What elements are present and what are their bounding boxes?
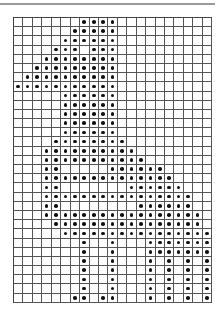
grid-cell (80, 248, 89, 257)
grid-cell (165, 55, 174, 64)
grid-cell (203, 55, 212, 64)
dot-marker (111, 149, 115, 153)
grid-cell (137, 294, 146, 303)
grid-cell (80, 294, 89, 303)
dot-marker (101, 103, 105, 107)
grid-cell (71, 156, 80, 165)
dot-marker (139, 232, 143, 236)
dot-marker (120, 213, 124, 217)
dot-marker (64, 131, 68, 135)
dot-marker (82, 29, 86, 33)
grid-cell (42, 92, 51, 101)
grid-cell (99, 110, 108, 119)
grid-cell (184, 202, 193, 211)
dot-marker (82, 140, 86, 144)
grid-cell (90, 27, 99, 36)
grid-cell (61, 257, 70, 266)
dot-marker (82, 94, 86, 98)
grid-cell (99, 257, 108, 266)
grid-cell (90, 156, 99, 165)
dot-marker (45, 149, 49, 153)
grid-cell (99, 266, 108, 275)
grid-cell (193, 202, 202, 211)
grid-cell (90, 128, 99, 137)
grid-cell (184, 193, 193, 202)
grid-cell (203, 220, 212, 229)
dot-marker (167, 287, 171, 291)
grid-cell (108, 92, 117, 101)
dot-marker (158, 167, 162, 171)
grid-cell (61, 183, 70, 192)
grid-cell (165, 229, 174, 238)
dot-marker (82, 259, 86, 263)
grid-cell (33, 156, 42, 165)
grid-cell (146, 174, 155, 183)
dot-marker (26, 85, 30, 89)
dot-marker (101, 149, 105, 153)
dot-marker (101, 29, 105, 33)
grid-cell (165, 275, 174, 284)
grid-cell (203, 64, 212, 73)
grid-cell (108, 101, 117, 110)
grid-cell (118, 82, 127, 91)
grid-cell (99, 119, 108, 128)
grid-cell (52, 36, 61, 45)
grid-cell (42, 257, 51, 266)
dot-marker (167, 296, 171, 300)
dot-marker (54, 195, 58, 199)
dot-marker (130, 176, 134, 180)
grid-cell (165, 137, 174, 146)
dot-marker (101, 85, 105, 89)
dot-marker (45, 85, 49, 89)
grid-cell (80, 239, 89, 248)
dot-marker (111, 85, 115, 89)
grid-cell (146, 119, 155, 128)
grid-cell (118, 101, 127, 110)
grid-cell (165, 220, 174, 229)
grid-cell (108, 165, 117, 174)
dot-marker (111, 268, 115, 272)
dot-marker (158, 241, 162, 245)
dot-marker (92, 39, 96, 43)
dot-marker (101, 112, 105, 116)
dot-marker (130, 195, 134, 199)
grid-cell (174, 174, 183, 183)
grid-cell (99, 248, 108, 257)
grid-cell (137, 275, 146, 284)
grid-cell (174, 211, 183, 220)
dot-marker (101, 232, 105, 236)
grid-cell (33, 110, 42, 119)
grid-cell (146, 110, 155, 119)
dot-marker (82, 296, 86, 300)
grid-cell (184, 119, 193, 128)
dot-marker (92, 176, 96, 180)
dot-marker (92, 131, 96, 135)
grid-cell (33, 137, 42, 146)
grid-cell (165, 46, 174, 55)
grid-cell (71, 137, 80, 146)
grid-cell (99, 73, 108, 82)
grid-cell (14, 147, 23, 156)
dot-marker (45, 195, 49, 199)
grid-cell (203, 193, 212, 202)
grid-cell (33, 73, 42, 82)
grid-cell (71, 220, 80, 229)
grid-cell (146, 55, 155, 64)
grid-cell (137, 229, 146, 238)
dot-marker (73, 66, 77, 70)
dot-marker (45, 186, 49, 190)
grid-cell (174, 110, 183, 119)
grid-cell (118, 110, 127, 119)
grid-cell (108, 64, 117, 73)
grid-cell (165, 211, 174, 220)
dot-marker (149, 232, 153, 236)
grid-cell (203, 46, 212, 55)
grid-cell (23, 147, 32, 156)
grid-cell (118, 55, 127, 64)
grid-cell (184, 36, 193, 45)
dot-marker (35, 66, 39, 70)
grid-cell (165, 202, 174, 211)
dot-marker (158, 186, 162, 190)
dot-marker (73, 140, 77, 144)
grid-cell (174, 137, 183, 146)
